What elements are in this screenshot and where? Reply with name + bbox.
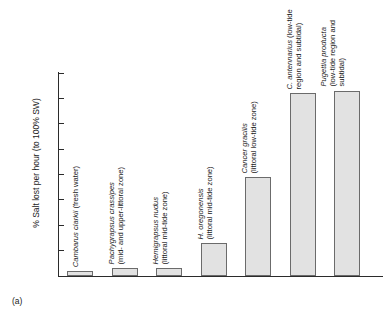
x-axis-line bbox=[58, 276, 383, 277]
species-name: Hemigrapsus nudus bbox=[151, 197, 160, 265]
bar-category-label: Cancer gracilis(littoral low-tide zone) bbox=[240, 101, 258, 173]
bar-category-label: Pugettia producta(low-tide region andsub… bbox=[319, 20, 347, 87]
y-axis-title: % Salt lost per hour (to 100% SW) bbox=[31, 63, 41, 263]
chart-bar[interactable]: Hemigrapsus nudus(littoral mid-tide zone… bbox=[156, 268, 182, 276]
bar-category-label-line: (littoral mid-tide zone) bbox=[204, 166, 213, 239]
bar-category-label: Cambarus clarkii (fresh water) bbox=[71, 166, 80, 267]
bar-category-label: H. oregonensis(littoral mid-tide zone) bbox=[195, 166, 213, 239]
species-name: Pachygrapsus crassipes bbox=[106, 182, 115, 264]
bar-category-label-line: (mid- and upper-littoral zone) bbox=[115, 167, 124, 265]
species-name: Cambarus clarkii bbox=[71, 210, 80, 267]
species-name: Pugettia producta bbox=[319, 27, 328, 87]
chart-bar[interactable]: Pachygrapsus crassipes(mid- and upper-li… bbox=[112, 268, 138, 276]
bar-category-label-line: Cambarus clarkii (fresh water) bbox=[71, 166, 80, 267]
chart-bar[interactable]: Cancer gracilis(littoral low-tide zone) bbox=[245, 177, 271, 276]
chart-bar[interactable]: C. antennarius (low-tideregion and subti… bbox=[290, 93, 316, 276]
bar-category-label: Pachygrapsus crassipes(mid- and upper-li… bbox=[106, 167, 124, 265]
chart-bar[interactable]: Cambarus clarkii (fresh water) bbox=[67, 271, 93, 276]
bar-category-label-line: region and subtidal) bbox=[293, 9, 302, 89]
bar-category-label-line: (littoral low-tide zone) bbox=[249, 101, 258, 173]
bar-category-label-line: (littoral mid-tide zone) bbox=[160, 191, 169, 264]
chart-bar[interactable]: H. oregonensis(littoral mid-tide zone) bbox=[201, 243, 227, 276]
figure-panel-a: 0.80.70.60.50.40.30.20.10 % Salt lost pe… bbox=[0, 0, 388, 323]
chart-bar[interactable]: Pugettia producta(low-tide region andsub… bbox=[334, 91, 360, 276]
bar-category-label-line: C. antennarius (low-tide bbox=[284, 9, 293, 89]
bar-category-label-line: Hemigrapsus nudus bbox=[151, 191, 160, 264]
plot-area: Cambarus clarkii (fresh water)Pachygraps… bbox=[58, 73, 378, 276]
species-name: Cancer gracilis bbox=[240, 123, 249, 173]
bar-category-label-line: Pachygrapsus crassipes bbox=[106, 167, 115, 265]
species-name: H. oregonensis bbox=[195, 188, 204, 239]
panel-letter: (a) bbox=[12, 296, 22, 306]
bar-category-label: Hemigrapsus nudus(littoral mid-tide zone… bbox=[151, 191, 169, 264]
bar-category-label-line: Pugettia producta bbox=[319, 20, 328, 87]
bar-category-label-line: H. oregonensis bbox=[195, 166, 204, 239]
bar-category-label-line: (low-tide region and bbox=[329, 20, 338, 87]
bar-category-label-line: subtidal) bbox=[338, 20, 347, 87]
species-name: C. antennarius bbox=[284, 40, 293, 89]
bar-category-label-line: Cancer gracilis bbox=[240, 101, 249, 173]
bar-category-label: C. antennarius (low-tideregion and subti… bbox=[284, 9, 302, 89]
